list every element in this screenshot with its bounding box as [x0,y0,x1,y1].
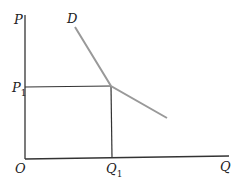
quantity-guide-line [111,86,112,158]
price-label: P1 [12,81,26,98]
x-axis [25,156,229,159]
origin-label: O [15,162,26,175]
y-axis-label: P [14,13,23,26]
price-guide-line [25,86,111,87]
demand-diagram [0,0,234,182]
quantity-label: Q1 [106,162,122,179]
x-axis-label: Q [220,160,231,173]
demand-curve [75,27,167,118]
curve-label: D [67,12,77,25]
